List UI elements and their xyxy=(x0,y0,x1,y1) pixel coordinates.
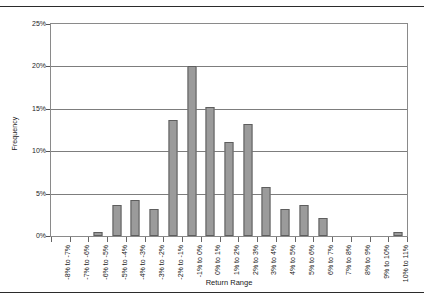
bar-slot xyxy=(332,24,351,236)
x-tick-label-text: 10% to 11% xyxy=(402,245,409,282)
bar-slot xyxy=(276,24,295,236)
x-tick-label-text: 0% to 1% xyxy=(214,245,221,275)
x-tick-label-text: 3% to 4% xyxy=(270,245,277,275)
x-tick-mark xyxy=(182,237,183,242)
x-tick-mark xyxy=(220,237,221,242)
x-tick-mark xyxy=(88,237,89,242)
x-tick-label-text: 9% to 10% xyxy=(383,245,390,279)
histogram-figure: Frequency 25%20%15%10%5%0% -8% to -7%-7%… xyxy=(0,10,424,290)
x-tick-mark xyxy=(163,237,164,242)
x-tick-mark xyxy=(201,237,202,242)
x-axis-ticks xyxy=(51,237,407,242)
x-tick-label-text: -2% to -1% xyxy=(177,245,184,280)
x-axis-title: Return Range xyxy=(50,278,408,287)
bar[interactable] xyxy=(112,205,121,236)
bar-slot xyxy=(351,24,370,236)
x-tick-label-text: 5% to 6% xyxy=(308,245,315,275)
x-tick-label-text: 1% to 2% xyxy=(233,245,240,275)
bar[interactable] xyxy=(93,232,102,236)
x-tick-label-text: 7% to 8% xyxy=(345,245,352,275)
bar-slot xyxy=(370,24,389,236)
x-tick-label-text: -7% to -6% xyxy=(83,245,90,280)
x-tick-mark xyxy=(126,237,127,242)
bar-slot xyxy=(51,24,70,236)
bar-slot xyxy=(388,24,407,236)
y-tick-label: 0% xyxy=(6,232,46,239)
x-tick-label-text: -4% to -3% xyxy=(139,245,146,280)
x-tick-mark xyxy=(51,237,52,242)
bar[interactable] xyxy=(206,107,215,236)
x-tick-mark xyxy=(145,237,146,242)
x-tick-mark xyxy=(370,237,371,242)
bar-slot xyxy=(70,24,89,236)
y-tick-label: 15% xyxy=(6,105,46,112)
x-tick-label-text: -1% to 0% xyxy=(196,245,203,277)
page-bottom-rule xyxy=(0,292,424,293)
x-tick-label-text: 2% to 3% xyxy=(252,245,259,275)
bar[interactable] xyxy=(131,200,140,236)
page-top-rule xyxy=(0,6,424,7)
bar[interactable] xyxy=(168,120,177,236)
bar-slot xyxy=(238,24,257,236)
y-tick-label: 20% xyxy=(6,62,46,69)
bar-slot xyxy=(313,24,332,236)
x-tick-label-text: -5% to -4% xyxy=(121,245,128,280)
x-tick-mark xyxy=(313,237,314,242)
bar-slot xyxy=(163,24,182,236)
x-tick-mark xyxy=(257,237,258,242)
x-tick-mark xyxy=(70,237,71,242)
bar-slot xyxy=(220,24,239,236)
bar[interactable] xyxy=(262,187,271,236)
x-tick-label-text: 8% to 9% xyxy=(364,245,371,275)
x-tick-mark xyxy=(295,237,296,242)
bar-slot xyxy=(201,24,220,236)
y-tick-label: 10% xyxy=(6,147,46,154)
x-tick-mark xyxy=(351,237,352,242)
bar[interactable] xyxy=(224,142,233,236)
bar[interactable] xyxy=(150,209,159,236)
bar-slot xyxy=(126,24,145,236)
bar[interactable] xyxy=(299,205,308,236)
bar-slot xyxy=(257,24,276,236)
x-tick-label-text: -6% to -5% xyxy=(102,245,109,280)
bar-slot xyxy=(88,24,107,236)
x-tick-label-text: 6% to 7% xyxy=(327,245,334,275)
x-tick-mark xyxy=(332,237,333,242)
y-axis-title: Frequency xyxy=(11,104,18,164)
x-tick-mark xyxy=(276,237,277,242)
x-tick-label-text: -8% to -7% xyxy=(64,245,71,280)
bar-slot xyxy=(107,24,126,236)
bar-slot xyxy=(182,24,201,236)
bar-slot xyxy=(145,24,164,236)
x-tick-label-text: -3% to -2% xyxy=(158,245,165,280)
x-tick-mark xyxy=(238,237,239,242)
bar[interactable] xyxy=(243,124,252,236)
bar[interactable] xyxy=(187,66,196,236)
bar[interactable] xyxy=(318,218,327,236)
bar[interactable] xyxy=(393,232,402,236)
bar-slot xyxy=(295,24,314,236)
x-tick-mark xyxy=(107,237,108,242)
y-tick-label: 25% xyxy=(6,20,46,27)
bar[interactable] xyxy=(281,209,290,236)
y-tick-label: 5% xyxy=(6,190,46,197)
x-tick-label-text: 4% to 5% xyxy=(289,245,296,275)
bars-layer xyxy=(51,24,407,236)
x-tick-mark xyxy=(388,237,389,242)
x-tick-mark xyxy=(407,237,408,242)
